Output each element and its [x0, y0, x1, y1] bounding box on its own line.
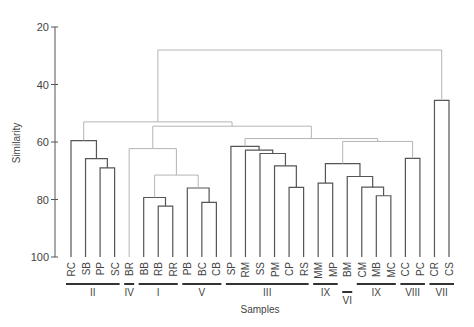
leaf-label: BM: [342, 262, 353, 277]
merge-link: [434, 100, 449, 257]
group-label: III: [263, 287, 271, 298]
leaf-label: PC: [415, 262, 426, 276]
merge-link: [158, 206, 173, 257]
merge-link: [275, 166, 297, 257]
leaf-label: BB: [139, 262, 150, 276]
merge-link: [153, 126, 312, 148]
group-label: VII: [436, 287, 448, 298]
merge-link: [376, 196, 391, 257]
leaf-label: BR: [124, 262, 135, 276]
leaf-label: MP: [328, 262, 339, 277]
merge-link: [155, 175, 199, 197]
leaf-label: SS: [255, 262, 266, 276]
leaf-label: CM: [357, 262, 368, 278]
group-label: V: [199, 287, 206, 298]
leaf-label: RR: [168, 262, 179, 276]
leaf-label: PB: [182, 262, 193, 276]
group-label: IV: [124, 287, 134, 298]
leaf-label: MB: [371, 262, 382, 277]
leaf-label: MC: [386, 262, 397, 278]
merge-link: [343, 141, 413, 163]
merge-link: [158, 50, 442, 122]
leaf-label: RM: [240, 262, 251, 278]
leaf-label: PM: [270, 262, 281, 277]
dendrogram-chart: 20406080100 RCSBPPSCBRBBRBRRPBBCCBSPRMSS…: [0, 0, 474, 327]
merge-link: [245, 139, 378, 147]
merge-link: [187, 188, 209, 257]
group-label: VI: [343, 295, 352, 306]
leaf-label: BC: [197, 262, 208, 276]
merge-link: [260, 154, 285, 258]
dendrogram-links: [71, 50, 449, 257]
y-tick-label: 100: [31, 251, 49, 263]
merge-link: [84, 122, 232, 141]
leaf-label: MM: [313, 262, 324, 279]
y-tick-label: 80: [37, 194, 49, 206]
merge-link: [325, 164, 360, 184]
y-axis: 20406080100: [31, 21, 58, 263]
merge-link: [318, 183, 333, 257]
group-labels: IIIVIVIIIIXVIIXVIIIVII: [66, 284, 454, 306]
merge-link: [289, 187, 304, 257]
leaf-label: PP: [95, 262, 106, 276]
merge-link: [347, 177, 372, 258]
merge-link: [362, 187, 384, 257]
merge-link: [202, 202, 217, 257]
x-axis-title: Samples: [241, 304, 280, 315]
leaf-label: CB: [211, 262, 222, 276]
group-label: I: [157, 287, 160, 298]
merge-link: [86, 159, 108, 257]
y-tick-label: 40: [37, 79, 49, 91]
y-tick-label: 20: [37, 21, 49, 33]
leaf-label: RB: [153, 262, 164, 276]
leaf-label: CR: [429, 262, 440, 276]
y-tick-label: 60: [37, 136, 49, 148]
leaf-label: CP: [284, 262, 295, 276]
y-axis-title: Similarity: [11, 123, 22, 164]
leaf-label: SC: [110, 262, 121, 276]
merge-link: [245, 150, 272, 257]
group-label: IX: [372, 287, 382, 298]
merge-link: [129, 149, 176, 257]
group-label: VIII: [405, 287, 420, 298]
group-label: II: [90, 287, 96, 298]
leaf-labels: RCSBPPSCBRBBRBRRPBBCCBSPRMSSPMCPRSMMMPBM…: [66, 262, 455, 279]
leaf-label: RS: [299, 262, 310, 276]
merge-link: [100, 168, 115, 257]
leaf-label: CS: [444, 262, 455, 276]
leaf-label: CC: [400, 262, 411, 276]
group-label: IX: [321, 287, 331, 298]
merge-link: [71, 141, 96, 257]
leaf-label: RC: [66, 262, 77, 276]
leaf-label: SP: [226, 262, 237, 276]
merge-link: [405, 158, 420, 257]
leaf-label: SB: [81, 262, 92, 276]
